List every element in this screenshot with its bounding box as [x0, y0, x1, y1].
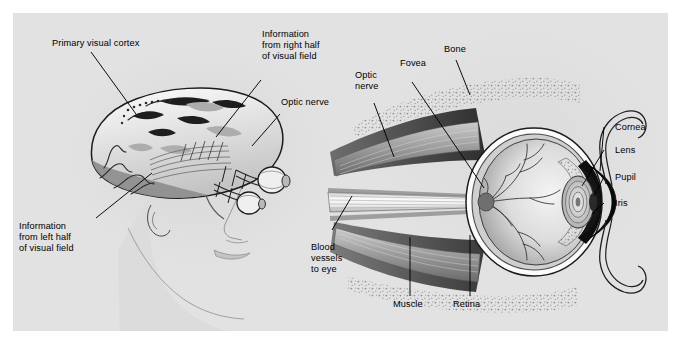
label-blood-vessels-to-eye: Blood vessels to eye — [311, 242, 342, 276]
label-retina: Retina — [453, 299, 480, 310]
label-primary-visual-cortex: Primary visual cortex — [52, 38, 139, 49]
label-optic-nerve-eye: Optic nerve — [355, 70, 378, 92]
label-bone: Bone — [444, 44, 466, 55]
label-muscle: Muscle — [393, 299, 423, 310]
label-iris: Iris — [615, 198, 628, 209]
label-pupil: Pupil — [615, 172, 636, 183]
pupil — [589, 193, 597, 211]
figure-canvas: Primary visual cortex Information from r… — [0, 0, 681, 345]
label-fovea: Fovea — [400, 58, 426, 69]
label-optic-nerve-brain: Optic nerve — [281, 97, 329, 108]
label-cornea: Cornea — [615, 122, 646, 133]
label-information-left-half: Information from left half of visual fie… — [19, 221, 74, 255]
label-information-right-half: Information from right half of visual fi… — [262, 29, 320, 63]
anatomy-illustration — [0, 0, 681, 345]
optic-disc — [478, 193, 494, 211]
label-lens: Lens — [615, 145, 635, 156]
